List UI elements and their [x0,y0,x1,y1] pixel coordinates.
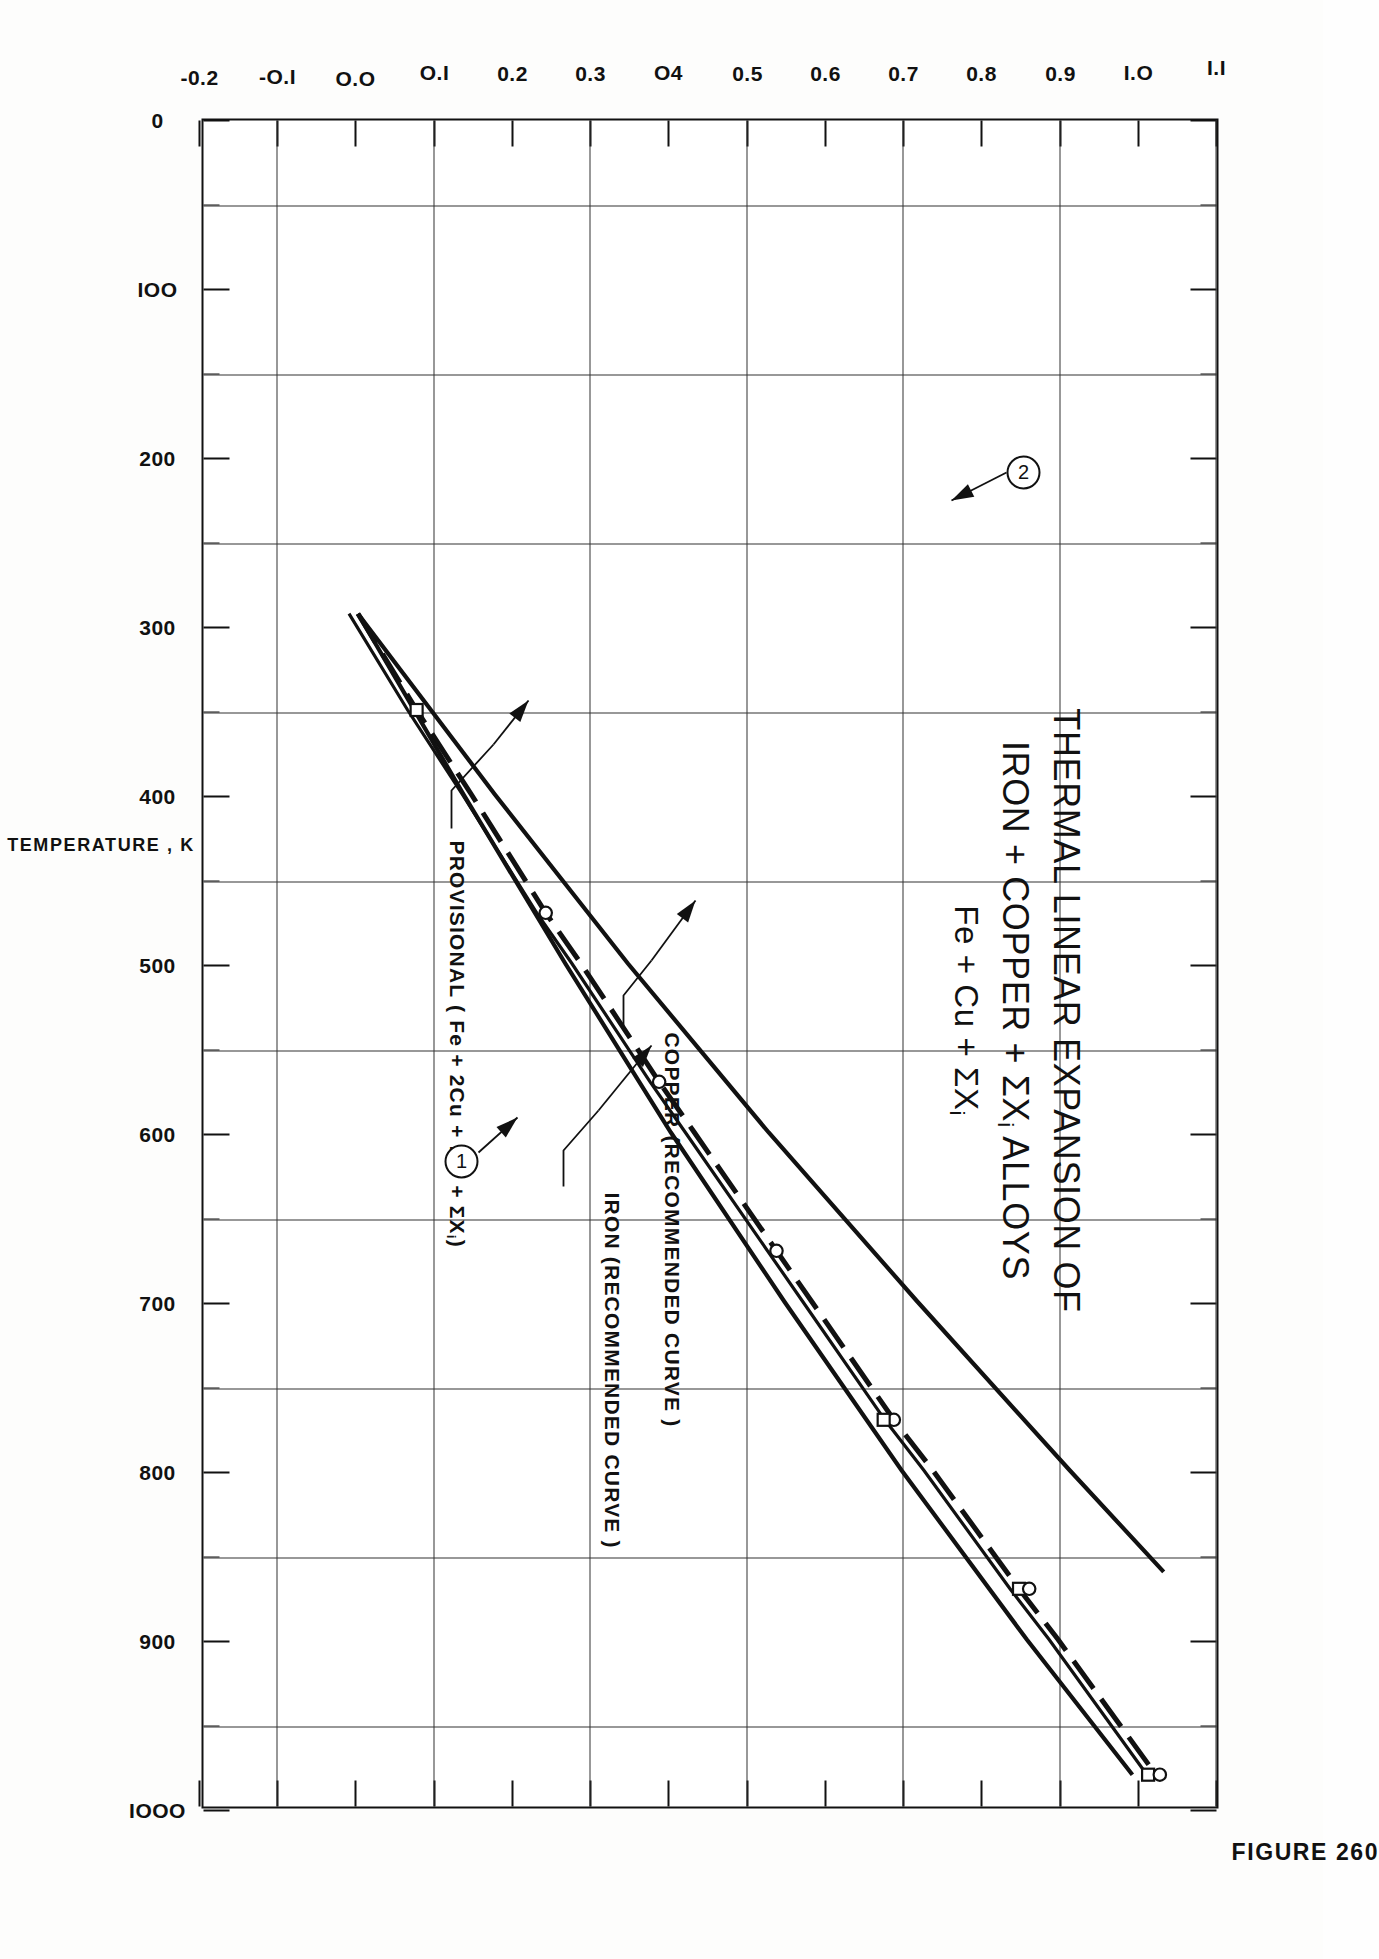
grid-line-vertical [203,1388,1216,1389]
grid-line-horizontal [276,120,277,1806]
x-tick [1190,1809,1216,1811]
annotation-copper: COPPER (RECOMMENDED CURVE ) [659,1032,683,1427]
x-tick [1190,626,1216,628]
grid-line-vertical [203,205,1216,206]
y-tick-label: O4 [654,61,683,85]
grid-line-vertical [203,881,1216,882]
x-tick-label: 700 [139,1291,176,1315]
x-tick [1190,1133,1216,1135]
y-tick [667,1780,669,1806]
x-tick [1190,288,1216,290]
grid-line-horizontal [746,120,747,1806]
x-tick [1190,1471,1216,1473]
y-tick [980,1780,982,1806]
x-tick [1190,119,1216,121]
y-tick-label: 0.5 [731,61,762,85]
y-tick-label: -O.I [259,65,296,89]
grid-line-vertical [203,1050,1216,1051]
x-tick [1190,964,1216,966]
x-tick [203,795,229,797]
y-tick [198,1780,200,1806]
y-tick-label: I.O [1123,61,1153,85]
x-tick-label: 600 [139,1122,176,1146]
x-tick [203,457,229,459]
y-tick [1137,1780,1139,1806]
grid-line-horizontal [433,120,434,1806]
x-tick [1190,795,1216,797]
x-tick [203,1809,229,1811]
annotation-provisional-tail: ) [445,1239,468,1247]
y-tick-label: 0.3 [575,61,606,85]
y-tick [824,1780,826,1806]
y-tick-label: -0.2 [180,65,218,89]
grid-line-vertical [203,1219,1216,1220]
x-tick-label: IOO [137,277,177,301]
x-tick [203,964,229,966]
x-tick [203,288,229,290]
grid-line-horizontal [1059,120,1060,1806]
y-tick-label: 0.6 [810,61,841,85]
annotation-iron: IRON (RECOMMENDED CURVE ) [599,1192,623,1548]
x-tick [203,119,229,121]
grid-line-horizontal [589,120,590,1806]
x-tick-label: 500 [139,953,176,977]
x-tick-label: IOOO [129,1798,186,1822]
x-tick [203,626,229,628]
grid-line-vertical [203,1726,1216,1727]
y-tick [980,120,982,146]
figure-number: FIGURE 260 [1231,1838,1379,1865]
callout-marker-2: 2 [1006,455,1040,489]
y-tick [354,1780,356,1806]
x-tick [203,1471,229,1473]
x-tick-label: 200 [139,446,176,470]
grid-line-vertical [203,712,1216,713]
x-axis-title: TEMPERATURE , K [7,835,195,856]
y-tick-label: 0.8 [966,61,997,85]
grid-line-vertical [203,374,1216,375]
y-tick [667,120,669,146]
y-tick-label: 0.7 [888,61,919,85]
y-tick [354,120,356,146]
y-tick-label: O.O [335,66,375,90]
y-tick [511,1780,513,1806]
grid-line-horizontal [1215,120,1216,1806]
y-tick-label: O.I [419,61,449,85]
x-tick-label: 800 [139,1460,176,1484]
x-tick [203,1640,229,1642]
y-tick-label: 0.9 [1044,61,1075,85]
grid-line-vertical [203,1557,1216,1558]
plot-area: 0IOO200300400500600700800900IOOO-0.2-O.I… [201,118,1218,1808]
x-tick [1190,1640,1216,1642]
grid-line-vertical [203,543,1216,544]
callout-marker-1: 1 [444,1144,478,1178]
y-tick-label: I.I [1206,56,1225,80]
x-tick-label: 300 [139,615,176,639]
y-tick [1137,120,1139,146]
x-tick [203,1133,229,1135]
y-tick [198,120,200,146]
callout-1-label: 1 [455,1151,466,1171]
x-tick [203,1302,229,1304]
y-tick [824,120,826,146]
x-tick-label: 0 [151,108,163,132]
grid-line-horizontal [902,120,903,1806]
callout-2-label: 2 [1017,462,1028,482]
x-tick [1190,457,1216,459]
x-tick-label: 400 [139,784,176,808]
annotation-provisional-sub: i [443,1234,458,1239]
x-tick-label: 900 [139,1629,176,1653]
y-tick [511,120,513,146]
annotation-provisional: PROVISIONAL ( Fe + 2Cu + lCr + ΣXi) [443,840,468,1247]
y-tick-label: 0.2 [497,61,528,85]
x-tick [1190,1302,1216,1304]
